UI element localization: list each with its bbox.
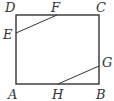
label-f: F [50, 0, 61, 15]
label-h: H [51, 87, 64, 101]
geometry-diagram: D F C E G A H B [0, 0, 114, 101]
segment-ef [16, 15, 57, 33]
label-a: A [7, 87, 17, 101]
label-e: E [2, 27, 13, 42]
label-d: D [4, 0, 16, 15]
segment-hg [58, 66, 99, 84]
rectangle-abcd [16, 15, 99, 84]
label-g: G [102, 55, 112, 70]
label-c: C [96, 0, 106, 15]
label-b: B [95, 87, 106, 101]
